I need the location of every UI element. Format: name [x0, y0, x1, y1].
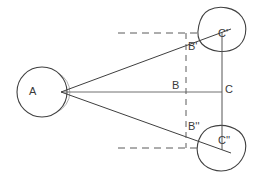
- vertex-label-C: C: [225, 84, 233, 95]
- ray-A-to-C-prime: [61, 29, 231, 92]
- circle-A: [17, 67, 67, 117]
- vertex-label-C-double-prime: C'': [218, 135, 230, 146]
- vertex-label-C-prime: C': [218, 28, 228, 39]
- vertex-label-B-double-prime: B'': [188, 121, 200, 132]
- circle-C-double-prime: [197, 125, 246, 170]
- geometry-diagram-canvas: A B C B' C' B'' C'': [0, 0, 259, 177]
- vertex-label-B-prime: B': [188, 41, 197, 52]
- vertex-label-B: B: [172, 80, 179, 91]
- ray-A-to-C-double-prime: [61, 92, 231, 153]
- vertex-label-A: A: [29, 86, 36, 97]
